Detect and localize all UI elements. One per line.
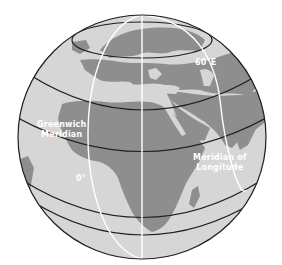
greenwich-meridian-label: Greenwich Meridian [37,120,86,140]
greenwich-label-line1: Greenwich [37,120,86,130]
sixty-east-label: 60°E [195,58,216,68]
meridian-of-longitude-label: Meridian of Longitude [193,153,247,173]
meridian-label-line1: Meridian of [193,153,247,163]
meridian-label-line2: Longitude [193,163,247,173]
zero-degree-label: 0° [76,174,86,184]
greenwich-label-line2: Meridian [37,130,86,140]
